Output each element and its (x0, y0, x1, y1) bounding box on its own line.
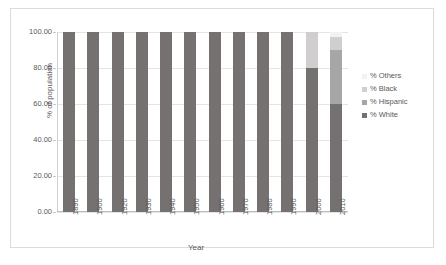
y-tick-mark (53, 104, 56, 105)
bar-segment[interactable] (233, 32, 245, 212)
legend-swatch-icon (362, 100, 367, 105)
bar-segment[interactable] (184, 32, 196, 212)
bar-group[interactable] (112, 32, 124, 212)
y-tick-mark (53, 212, 56, 213)
legend-label: % White (370, 111, 398, 119)
bar-group[interactable] (63, 32, 75, 212)
y-tick-label: 40.00 (33, 136, 52, 144)
bar-group[interactable] (281, 32, 293, 212)
x-axis-ticks: 1890190019201930194019501960197019801990… (57, 212, 348, 242)
bar-segment[interactable] (330, 50, 342, 104)
y-tick-label: 0.00 (37, 208, 52, 216)
legend-item[interactable]: % Black (362, 83, 432, 95)
bar-segment[interactable] (306, 68, 318, 212)
x-tick-label: 1920 (121, 203, 129, 215)
bar-segment[interactable] (330, 37, 342, 50)
bar-segment[interactable] (63, 32, 75, 212)
legend-item[interactable]: % Others (362, 70, 432, 82)
x-tick-label: 2010 (339, 203, 347, 215)
chart-figure: % of population 0.0020.0040.0060.0080.00… (0, 0, 446, 265)
y-tick-mark (53, 32, 56, 33)
legend-label: % Black (370, 85, 397, 93)
bar-segment[interactable] (330, 104, 342, 212)
y-tick-mark (53, 140, 56, 141)
x-tick-label: 2000 (315, 203, 323, 215)
bar-group[interactable] (160, 32, 172, 212)
x-tick-label: 1890 (72, 203, 80, 215)
x-tick-label: 1960 (218, 203, 226, 215)
plot-area (57, 32, 348, 212)
legend-swatch-icon (362, 113, 367, 118)
bar-segment[interactable] (209, 32, 221, 212)
bar-group[interactable] (257, 32, 269, 212)
legend-label: % Others (370, 72, 401, 80)
legend-item[interactable]: % Hispanic (362, 96, 432, 108)
bar-group[interactable] (209, 32, 221, 212)
legend-swatch-icon (362, 87, 367, 92)
y-tick-label: 100.00 (29, 28, 52, 36)
x-tick-label: 1980 (266, 203, 274, 215)
bar-segment[interactable] (136, 32, 148, 212)
legend-item[interactable]: % White (362, 109, 432, 121)
bar-group[interactable] (87, 32, 99, 212)
bar-group[interactable] (233, 32, 245, 212)
legend-label: % Hispanic (370, 98, 408, 106)
bar-segment[interactable] (87, 32, 99, 212)
x-tick-label: 1970 (242, 203, 250, 215)
bar-group[interactable] (330, 32, 342, 212)
bars-layer (57, 32, 348, 212)
x-tick-label: 1930 (145, 203, 153, 215)
x-tick-label: 1990 (290, 203, 298, 215)
bar-group[interactable] (306, 32, 318, 212)
bar-segment[interactable] (257, 32, 269, 212)
x-tick-label: 1900 (96, 203, 104, 215)
y-tick-label: 80.00 (33, 64, 52, 72)
y-tick-mark (53, 176, 56, 177)
y-tick-label: 20.00 (33, 172, 52, 180)
x-axis-title: Year (188, 243, 204, 252)
bar-group[interactable] (136, 32, 148, 212)
legend-swatch-icon (362, 74, 367, 79)
bar-segment[interactable] (112, 32, 124, 212)
x-tick-label: 1940 (169, 203, 177, 215)
bar-segment[interactable] (160, 32, 172, 212)
y-tick-mark (53, 68, 56, 69)
x-tick-label: 1950 (193, 203, 201, 215)
bar-segment[interactable] (281, 32, 293, 212)
bar-segment[interactable] (330, 32, 342, 37)
y-tick-label: 60.00 (33, 100, 52, 108)
chart-legend: % Others% Black% Hispanic% White (362, 70, 432, 122)
y-axis-ticks: 0.0020.0040.0060.0080.00100.00 (10, 32, 52, 212)
bar-group[interactable] (184, 32, 196, 212)
bar-segment[interactable] (306, 32, 318, 68)
